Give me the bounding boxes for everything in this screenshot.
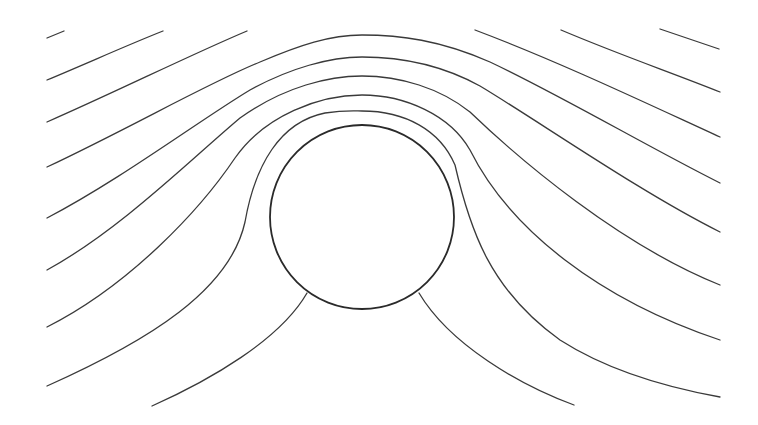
streamline [47,31,247,122]
streamline [47,31,64,38]
streamline [660,29,719,49]
streamline [561,30,720,92]
streamline [152,293,307,406]
streamline [47,31,163,80]
cylinder-obstacle [270,125,454,309]
streamline-diagram [0,0,758,425]
streamline [475,30,720,137]
streamline [419,293,574,405]
flow-field-canvas [0,0,758,425]
